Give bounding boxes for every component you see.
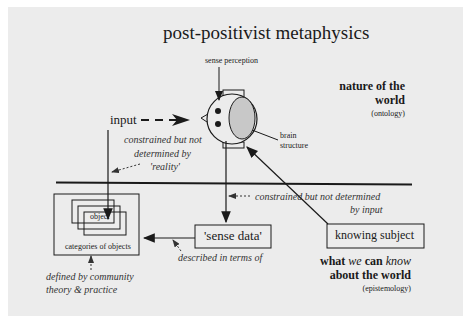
input-label: input bbox=[110, 112, 137, 128]
ontology-sub: (ontology) bbox=[371, 109, 405, 118]
epistemology-know: know bbox=[386, 254, 411, 268]
constrained-input-1: constrained but not determined bbox=[255, 191, 380, 202]
sense-data-label: 'sense data' bbox=[204, 228, 262, 244]
epistemology-what: what bbox=[320, 254, 348, 268]
defined-by-1: defined by community bbox=[46, 271, 134, 282]
knowing-subject-label: knowing subject bbox=[335, 228, 414, 243]
defined-by-2: theory & practice bbox=[46, 284, 117, 295]
sense-perception-label: sense perception bbox=[205, 56, 258, 65]
described-in-terms-of: described in terms of bbox=[178, 252, 262, 263]
epistemology-can: can bbox=[362, 254, 386, 268]
object-label: object bbox=[90, 212, 110, 221]
epistemology-line1: what we can know bbox=[320, 254, 411, 269]
ontology-epistemology-divider bbox=[56, 183, 412, 185]
brain-structure-label-1: brain bbox=[280, 131, 296, 140]
constrained-reality-1: constrained but not bbox=[124, 134, 202, 145]
diagram-title: post-positivist metaphysics bbox=[163, 22, 369, 44]
constrained-reality-3: 'reality' bbox=[150, 161, 180, 172]
epistemology-we: we bbox=[348, 254, 361, 268]
head-icon bbox=[201, 90, 257, 148]
ontology-line2: world bbox=[375, 93, 405, 108]
categories-label: categories of objects bbox=[65, 242, 131, 251]
epistemology-line2: about the world bbox=[330, 268, 411, 283]
epistemology-sub: (epistemology) bbox=[363, 284, 411, 293]
constrained-input-2: by input bbox=[350, 204, 383, 215]
constrained-reality-2: determined by bbox=[134, 148, 191, 159]
brain-structure-label-2: structure bbox=[280, 141, 308, 150]
ontology-line1: nature of the bbox=[339, 79, 405, 94]
